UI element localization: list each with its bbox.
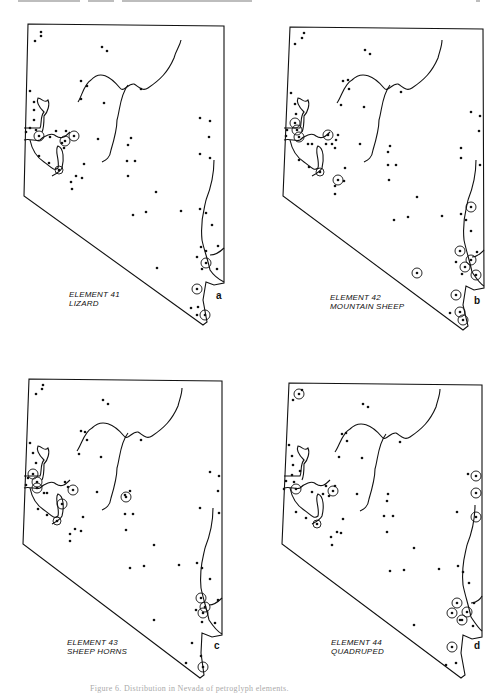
element-number: ELEMENT 43 <box>67 638 127 647</box>
element-label-a: ELEMENT 41 LIZARD <box>69 290 120 308</box>
map-panel-a: ELEMENT 41 LIZARD a <box>0 0 250 340</box>
element-number: ELEMENT 41 <box>69 290 120 299</box>
element-number: ELEMENT 44 <box>331 638 384 647</box>
element-name: LIZARD <box>69 299 120 308</box>
element-label-c: ELEMENT 43 SHEEP HORNS <box>67 638 127 656</box>
circled-sites-a <box>34 131 211 320</box>
element-number: ELEMENT 42 <box>330 293 404 302</box>
panel-letter-d: d <box>474 640 480 651</box>
element-label-d: ELEMENT 44 QUADRUPED <box>331 638 384 656</box>
panel-letter-c: c <box>214 640 220 651</box>
nevada-map-b <box>260 0 503 340</box>
element-name: QUADRUPED <box>331 647 384 656</box>
element-name: SHEEP HORNS <box>67 647 127 656</box>
nevada-map-d <box>260 345 503 680</box>
map-panel-d: ELEMENT 44 QUADRUPED d <box>260 345 503 680</box>
panel-letter-b: b <box>474 295 480 306</box>
map-panel-c: ELEMENT 43 SHEEP HORNS c <box>0 345 250 680</box>
nevada-map-c <box>0 345 250 680</box>
figure-caption: Figure 6. Distribution in Nevada of petr… <box>90 684 289 693</box>
element-name: MOUNTAIN SHEEP <box>330 302 404 311</box>
element-label-b: ELEMENT 42 MOUNTAIN SHEEP <box>330 293 404 311</box>
panel-letter-a: a <box>216 290 222 301</box>
map-panel-b: ELEMENT 42 MOUNTAIN SHEEP b <box>260 0 503 340</box>
nevada-map-a <box>0 0 250 340</box>
